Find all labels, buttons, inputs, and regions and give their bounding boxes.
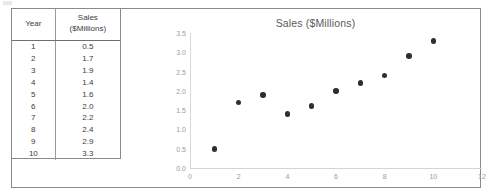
x-tick-label: 4 <box>285 173 289 180</box>
table-row: 92.9 <box>12 136 120 148</box>
data-point <box>431 38 437 44</box>
cell-sales: 2.9 <box>55 136 120 148</box>
cell-year: 7 <box>12 112 55 124</box>
column-header-sales-line2: ($Millions) <box>56 24 120 35</box>
data-point <box>260 92 266 98</box>
x-tick-label: 2 <box>237 173 241 180</box>
table-head: Year Sales ($Millions) <box>12 9 120 41</box>
data-point <box>309 103 315 109</box>
table-row: 72.2 <box>12 112 120 124</box>
x-tick-label: 0 <box>188 173 192 180</box>
sales-scatter-chart: Sales ($Millions) 0.00.51.01.52.02.53.03… <box>152 9 479 187</box>
table-row: 51.6 <box>12 89 120 101</box>
cell-year: 9 <box>12 136 55 148</box>
data-point <box>382 73 388 79</box>
cell-sales: 2.0 <box>55 101 120 113</box>
table-row: 41.4 <box>12 77 120 89</box>
y-tick-label: 0.0 <box>176 165 186 172</box>
cell-sales: 0.5 <box>55 41 120 53</box>
table-body: 10.521.731.941.451.662.072.282.492.9103.… <box>12 41 120 161</box>
x-tick-label: 12 <box>478 173 486 180</box>
data-point <box>236 100 242 106</box>
cell-year: 8 <box>12 124 55 136</box>
cell-year: 6 <box>12 101 55 113</box>
column-header-sales: Sales ($Millions) <box>55 9 120 41</box>
x-axis-tick-labels: 024681012 <box>152 173 479 185</box>
cell-sales: 2.4 <box>55 124 120 136</box>
table-row: 21.7 <box>12 53 120 65</box>
cell-sales: 1.6 <box>55 89 120 101</box>
x-axis-line <box>190 168 482 169</box>
table-row: 31.9 <box>12 65 120 77</box>
table-row: 103.3 <box>12 148 120 160</box>
plot-area <box>190 33 482 168</box>
cell-sales: 1.4 <box>55 77 120 89</box>
table-row: 62.0 <box>12 101 120 113</box>
cell-year: 4 <box>12 77 55 89</box>
cell-year: 1 <box>12 41 55 53</box>
cell-sales: 2.2 <box>55 112 120 124</box>
y-tick-label: 2.0 <box>176 87 186 94</box>
data-point <box>358 80 364 86</box>
column-header-year: Year <box>12 9 55 41</box>
y-tick-label: 3.5 <box>176 30 186 37</box>
cell-year: 2 <box>12 53 55 65</box>
x-tick-label: 8 <box>383 173 387 180</box>
scan-artifact-mark <box>3 1 12 5</box>
data-point <box>285 111 291 117</box>
data-point <box>406 53 412 59</box>
figure-page: Year Sales ($Millions) 10.521.731.941.45… <box>0 0 492 196</box>
data-point <box>333 88 339 94</box>
cell-sales: 3.3 <box>55 148 120 160</box>
y-tick-label: 0.5 <box>176 145 186 152</box>
cell-sales: 1.7 <box>55 53 120 65</box>
y-tick-label: 1.0 <box>176 126 186 133</box>
y-tick-label: 2.5 <box>176 68 186 75</box>
cell-year: 10 <box>12 148 55 160</box>
sales-table: Year Sales ($Millions) 10.521.731.941.45… <box>12 9 120 160</box>
table-header-row: Year Sales ($Millions) <box>12 9 120 41</box>
table-row: 10.5 <box>12 41 120 53</box>
y-tick-label: 3.0 <box>176 49 186 56</box>
sales-data-table: Year Sales ($Millions) 10.521.731.941.45… <box>11 8 121 159</box>
table-row: 82.4 <box>12 124 120 136</box>
y-tick-label: 1.5 <box>176 107 186 114</box>
column-header-sales-line1: Sales <box>78 13 98 22</box>
y-axis-tick-labels: 0.00.51.01.52.02.53.03.5 <box>152 33 186 168</box>
x-tick-label: 10 <box>429 173 437 180</box>
cell-year: 3 <box>12 65 55 77</box>
data-point <box>212 146 218 152</box>
chart-title: Sales ($Millions) <box>152 17 479 29</box>
x-tick-label: 6 <box>334 173 338 180</box>
cell-year: 5 <box>12 89 55 101</box>
cell-sales: 1.9 <box>55 65 120 77</box>
